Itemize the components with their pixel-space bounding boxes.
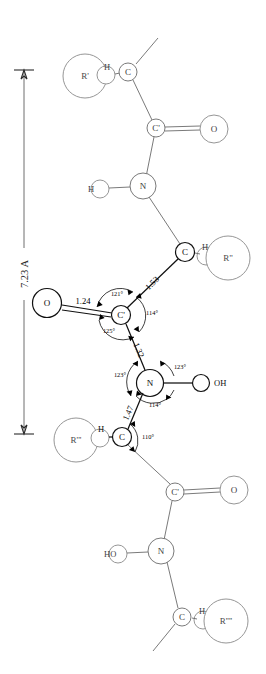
angle-label-114-nitrogen: 114° bbox=[149, 401, 161, 408]
angle-label-123-left: 123° bbox=[114, 371, 127, 378]
residue-4-group: C R'''' H bbox=[153, 599, 248, 651]
angle-arc-114-cp-icon bbox=[136, 297, 146, 332]
bond-calpha1-cprime1 bbox=[133, 80, 152, 120]
bond-n1-calpha2 bbox=[149, 197, 180, 244]
angle-arc-123-left-icon bbox=[127, 361, 138, 396]
rgroup-2-label: R" bbox=[223, 253, 233, 263]
c-alpha-1-label: C bbox=[125, 67, 131, 77]
bond-length-label-132: 1.32 bbox=[131, 341, 146, 359]
h-n3-label: HO bbox=[104, 549, 116, 559]
bond-hn3-n3 bbox=[127, 552, 148, 553]
h-atom-3-label: H bbox=[98, 424, 104, 434]
n-atom-3-label: N bbox=[158, 546, 165, 556]
angle-arc-123-left-cap-b bbox=[127, 390, 133, 396]
angle-label-110: 110° bbox=[142, 433, 154, 440]
double-bond-2-icon bbox=[62, 305, 112, 317]
bond-length-label-124: 1.24 bbox=[75, 296, 91, 306]
bond-n3-calpha4 bbox=[167, 562, 178, 608]
rgroup-1-label: R' bbox=[81, 71, 89, 81]
polypeptide-chain-diagram: 7.23 A C C' O N bbox=[0, 0, 266, 674]
rgroup-4-label: R'''' bbox=[220, 616, 233, 626]
angle-arc-114-cp-cap-b bbox=[134, 326, 139, 332]
diagram-canvas: 7.23 A C C' O N bbox=[0, 0, 266, 674]
oh-atom-2-circle bbox=[193, 375, 210, 392]
n-atom-2-label: N bbox=[147, 378, 154, 388]
bond-cprime3-n3 bbox=[164, 501, 172, 540]
residue-1-group: C C' O N R' H H bbox=[63, 38, 228, 244]
angle-label-114-cprime: 114° bbox=[146, 309, 158, 316]
bond-length-label-147: 1.47 bbox=[120, 403, 135, 421]
o-atom-2-label: O bbox=[44, 298, 51, 308]
dimension-annotation: 7.23 A bbox=[14, 70, 34, 434]
c-alpha-3-label: C bbox=[119, 432, 125, 442]
c-alpha-4-label: C bbox=[179, 612, 185, 622]
rgroup-3-label: R''' bbox=[71, 435, 82, 445]
double-bond-1-icon bbox=[165, 126, 200, 131]
n-atom-1-label: N bbox=[140, 181, 147, 191]
h-atom-1-label: H bbox=[104, 62, 110, 72]
o-atom-1-label: O bbox=[211, 124, 218, 134]
residue-3-group: C C' O N R''' H HO bbox=[54, 418, 248, 608]
dimension-label: 7.23 A bbox=[19, 260, 30, 288]
c-prime-3-label: C' bbox=[171, 487, 179, 497]
angle-label-125: 125° bbox=[103, 327, 116, 334]
c-prime-2-label: C' bbox=[117, 310, 125, 320]
o-atom-3-label: O bbox=[231, 485, 238, 495]
angle-arc-123-left-cap-a bbox=[133, 361, 139, 366]
oh-atom-2-label: OH bbox=[214, 378, 226, 388]
double-bond-3-icon bbox=[184, 488, 220, 494]
bond-chain-bottom-open bbox=[153, 624, 175, 651]
c-alpha-2-label: C bbox=[182, 247, 188, 257]
bond-hn1-n1 bbox=[109, 187, 130, 188]
h-atom-2-label: H bbox=[202, 242, 208, 252]
c-prime-1-label: C' bbox=[152, 123, 160, 133]
h-n1-label: H bbox=[88, 184, 94, 194]
bond-chain-top-open bbox=[136, 38, 158, 64]
angle-label-123-right: 123° bbox=[174, 363, 187, 370]
bond-cprime1-n1 bbox=[146, 137, 154, 177]
h-atom-4-label: H bbox=[199, 606, 205, 616]
angle-label-121: 121° bbox=[111, 290, 124, 297]
angle-arc-123-right-cap-a bbox=[160, 361, 166, 366]
angle-arc-121-cap-a bbox=[97, 301, 103, 307]
